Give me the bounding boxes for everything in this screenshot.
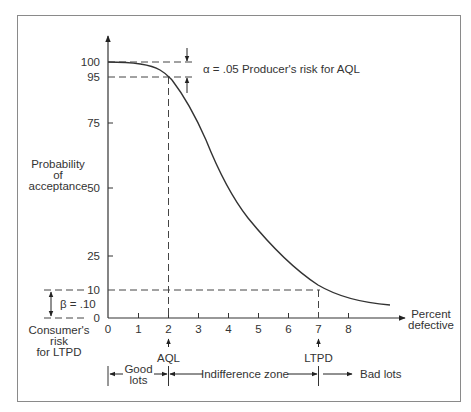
x-tick-3: 3 [195,323,201,335]
y-tick-0: 0 [94,312,100,324]
y-tick-50: 50 [87,182,100,194]
y-tick-75: 75 [87,117,100,129]
x-tick-1: 1 [135,323,141,335]
y-tick-10: 10 [87,284,100,296]
y-tick-95: 95 [87,71,100,83]
beta-annotation: β = .10 [60,298,96,310]
x-tick-5: 5 [255,323,261,335]
y-ticks [108,123,113,256]
x-axis-label-2: defective [408,319,454,331]
x-tick-2: 2 [165,323,171,335]
alpha-annotation: α = .05 Producer's risk for AQL [203,63,360,75]
y-axis-label-3: acceptance [29,180,88,192]
x-tick-0: 0 [105,323,111,335]
oc-curve [108,62,390,305]
bad-lots-label: Bad lots [360,368,402,380]
aql-label: AQL [157,352,181,364]
y-tick-25: 25 [87,250,100,262]
x-tick-6: 6 [285,323,291,335]
oc-chart: 100 95 75 50 25 10 0 0 1 2 3 4 5 6 7 8 α… [0,0,471,412]
good-lots-label-2: lots [130,374,148,386]
x-tick-7: 7 [315,323,321,335]
indifference-zone-label: Indifference zone [201,368,289,380]
consumer-risk-label-3: for LTPD [36,346,81,358]
x-ticks [139,313,349,318]
x-tick-4: 4 [225,323,232,335]
ltpd-label: LTPD [304,352,333,364]
y-tick-100: 100 [81,56,100,68]
x-tick-8: 8 [345,323,351,335]
